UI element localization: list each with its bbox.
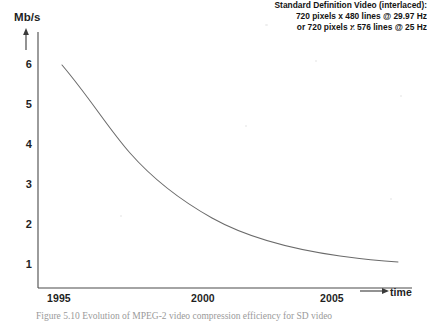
y-tick-label-3: 3: [18, 178, 32, 190]
scan-speck: [352, 27, 354, 30]
scan-speck: [245, 125, 247, 127]
y-tick-label-1: 1: [18, 258, 32, 270]
y-axis-arrow-head-icon: [23, 28, 29, 35]
bitrate-decay-curve: [62, 65, 398, 262]
chart-svg: [0, 0, 427, 322]
x-axis-arrow-head-icon: [382, 288, 389, 294]
scan-speck: [390, 198, 392, 200]
y-tick-label-6: 6: [18, 58, 32, 70]
y-tick-label-5: 5: [18, 98, 32, 110]
scan-speck: [400, 95, 402, 97]
x-tick-label-2000: 2000: [191, 292, 215, 304]
y-tick-label-4: 4: [18, 138, 32, 150]
x-tick-label-1995: 1995: [47, 292, 71, 304]
figure-container: Mb/s 6 5 4 3 2 1 1995 2000 2005 time Sta…: [0, 0, 427, 322]
y-tick-label-2: 2: [18, 218, 32, 230]
scan-speck: [120, 215, 122, 217]
scan-speck: [265, 24, 268, 26]
scan-speck: [315, 60, 317, 62]
y-axis-title: Mb/s: [14, 11, 41, 23]
figure-caption: Figure 5.10 Evolution of MPEG-2 video co…: [36, 311, 416, 322]
x-axis-title: time: [390, 286, 412, 298]
x-tick-label-2005: 2005: [320, 292, 344, 304]
